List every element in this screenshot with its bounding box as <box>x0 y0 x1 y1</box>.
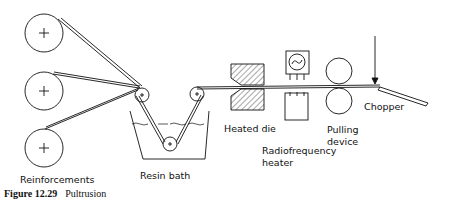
label-resin-bath: Resin bath <box>140 170 190 181</box>
figure-number: Figure 12.29 <box>4 188 57 199</box>
label-heated-die: Heated die <box>224 123 276 134</box>
chopper <box>372 36 428 106</box>
label-rf-heater-line1: Radiofrequency <box>262 145 336 156</box>
label-pulling-line2: device <box>327 136 358 147</box>
reinforcement-spool-middle <box>25 72 63 110</box>
label-rf-heater-line2: heater <box>262 157 293 168</box>
label-reinforcements: Reinforcements <box>20 174 94 185</box>
figure-title: Pultrusion <box>65 188 106 199</box>
resin-bath <box>130 111 209 159</box>
reinforcement-spool-top <box>25 14 63 52</box>
pulling-device <box>326 58 352 114</box>
guide-roller-inlet <box>135 88 149 102</box>
reinforcement-spool-bottom <box>25 129 63 167</box>
figure-caption: Figure 12.29Pultrusion <box>4 188 106 199</box>
label-pulling-line1: Pulling <box>327 124 359 135</box>
guide-roller-submerged <box>163 137 177 151</box>
label-chopper: Chopper <box>364 101 404 112</box>
